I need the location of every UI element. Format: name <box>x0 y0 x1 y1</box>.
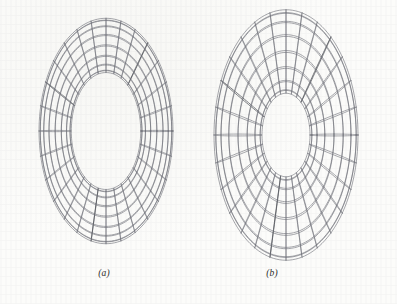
figure-page: (a) (b) <box>0 0 397 304</box>
figure-caption-a: (a) <box>92 268 116 278</box>
torus-wireframe <box>10 0 202 271</box>
torus-wireframe <box>182 0 388 273</box>
torus-panel-a <box>10 0 202 271</box>
torus-parallel <box>71 73 140 190</box>
torus-parallel <box>262 93 310 177</box>
torus-panel-b <box>182 0 388 273</box>
figure-caption-b: (b) <box>260 268 284 278</box>
